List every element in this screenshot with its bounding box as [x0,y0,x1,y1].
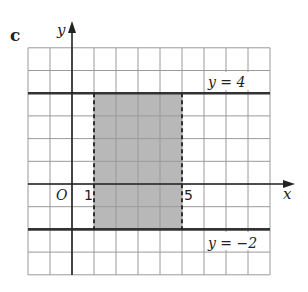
x-axis-label: x [283,185,292,203]
tick-label-5: 5 [184,187,193,203]
line-label-y4: y = 4 [207,74,245,90]
part-label: c [10,25,20,45]
y-axis-label: y [56,21,66,39]
inequality-graph: c y x O 1 5 y = 4 y = −2 [0,0,308,292]
line-label-y-2: y = −2 [207,235,257,251]
y-axis-arrow-icon [68,21,76,33]
origin-label: O [56,187,68,203]
tick-label-1: 1 [84,187,93,203]
